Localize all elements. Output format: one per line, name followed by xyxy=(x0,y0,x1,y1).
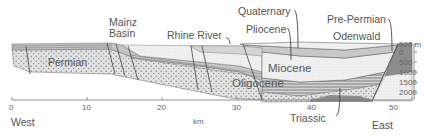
depth-0: 0 xyxy=(399,48,403,57)
label-east: East xyxy=(372,120,393,131)
depth-1500: 1500 xyxy=(399,78,417,87)
tick-20: 20 xyxy=(157,103,166,112)
tick-30: 30 xyxy=(232,103,241,112)
label-permian: Permian xyxy=(48,57,87,68)
label-oligocene: Oligocene xyxy=(232,78,284,89)
cross-section-figure: Mainz Basin Rhine River Quaternary Plioc… xyxy=(0,0,427,136)
label-west: West xyxy=(11,117,35,128)
label-km: km xyxy=(193,117,204,126)
label-basin: Basin xyxy=(109,28,135,39)
depth-1000: 1000 xyxy=(399,68,417,77)
label-miocene: Miocene xyxy=(268,63,311,74)
label-triassic: Triassic xyxy=(290,113,326,124)
label-pliocene: Pliocene xyxy=(246,24,286,35)
tick-0: 0 xyxy=(9,103,13,112)
label-pre-permian: Pre-Permian xyxy=(327,14,386,25)
label-quaternary: Quaternary xyxy=(238,6,291,17)
label-odenwald: Odenwald xyxy=(333,31,380,42)
tick-40: 40 xyxy=(307,103,316,112)
depth-500: 500 xyxy=(399,58,412,67)
depth-2000: 2000 xyxy=(399,88,417,97)
label-rhine-river: Rhine River xyxy=(167,30,222,41)
tick-50: 50 xyxy=(389,103,398,112)
tick-10: 10 xyxy=(82,103,91,112)
